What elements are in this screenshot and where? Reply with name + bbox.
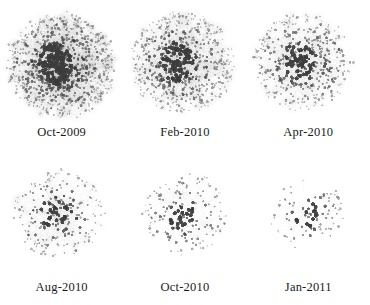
network-graph-oct-2009: [3, 4, 121, 122]
panel-feb-2010: Feb-2010: [123, 0, 246, 153]
network-evolution-figure: Oct-2009 Feb-2010 Apr-2010 Aug-2010 Oct-: [0, 0, 370, 305]
panel-caption-aug-2010: Aug-2010: [36, 281, 88, 294]
panel-caption-apr-2010: Apr-2010: [283, 126, 333, 139]
network-graph-apr-2010: [249, 4, 367, 122]
network-graph-canvas: [126, 155, 244, 273]
panel-aug-2010: Aug-2010: [0, 153, 123, 305]
network-graph-feb-2010: [126, 4, 244, 122]
panel-caption-feb-2010: Feb-2010: [160, 126, 210, 139]
network-graph-canvas: [249, 155, 367, 273]
panel-grid: Oct-2009 Feb-2010 Apr-2010 Aug-2010 Oct-: [0, 0, 370, 305]
network-graph-canvas: [3, 4, 121, 122]
network-graph-jan-2011: [249, 155, 367, 273]
panel-jan-2011: Jan-2011: [247, 153, 370, 305]
network-graph-aug-2010: [3, 155, 121, 273]
network-graph-canvas: [3, 155, 121, 273]
panel-caption-jan-2011: Jan-2011: [285, 281, 332, 294]
network-graph-canvas: [249, 4, 367, 122]
panel-caption-oct-2010: Oct-2010: [161, 281, 210, 294]
network-graph-oct-2010: [126, 155, 244, 273]
panel-apr-2010: Apr-2010: [247, 0, 370, 153]
panel-caption-oct-2009: Oct-2009: [37, 126, 86, 139]
network-graph-canvas: [126, 4, 244, 122]
panel-oct-2009: Oct-2009: [0, 0, 123, 153]
panel-oct-2010: Oct-2010: [123, 153, 246, 305]
